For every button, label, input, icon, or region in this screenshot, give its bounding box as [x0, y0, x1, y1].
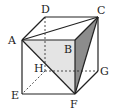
vertex-label-c: C [97, 4, 105, 17]
vertex-label-b: B [64, 43, 72, 56]
vertex-label-h: H [34, 62, 44, 75]
vertex-label-g: G [100, 65, 109, 78]
vertex-label-f: F [70, 98, 78, 111]
cube-diagram: A B C D E F G H [0, 0, 115, 112]
vertex-label-a: A [7, 34, 17, 47]
vertex-label-e: E [11, 89, 19, 102]
vertex-label-d: D [41, 3, 50, 16]
